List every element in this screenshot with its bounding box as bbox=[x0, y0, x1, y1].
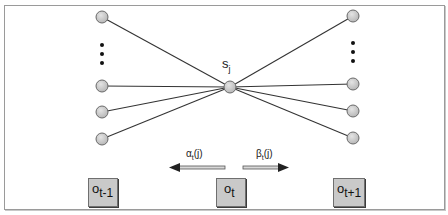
observation-label: ot+1 bbox=[337, 181, 361, 200]
observation-index: t-1 bbox=[99, 186, 113, 200]
left-edges bbox=[102, 17, 230, 139]
center-state-label: sj bbox=[222, 56, 231, 74]
diagram-canvas: sj αt(j) βt(j) ot-1 ot ot+1 bbox=[0, 0, 448, 215]
state-node bbox=[347, 105, 359, 117]
right-state-nodes bbox=[347, 10, 359, 144]
observation-box-next: ot+1 bbox=[333, 178, 365, 207]
observation-box-current: ot bbox=[216, 178, 246, 207]
beta-arrow-icon bbox=[243, 163, 289, 172]
state-node bbox=[347, 132, 359, 144]
beta-arg: (j) bbox=[264, 148, 273, 159]
center-state-node bbox=[224, 81, 236, 93]
state-node bbox=[347, 10, 359, 22]
observation-label: ot-1 bbox=[92, 181, 113, 200]
left-state-nodes bbox=[96, 11, 108, 145]
left-ellipsis-icon bbox=[100, 43, 104, 65]
alpha-label: αt(j) bbox=[186, 148, 203, 161]
observation-index: t+1 bbox=[344, 186, 361, 200]
observation-label: ot bbox=[224, 181, 235, 200]
alpha-arg: (j) bbox=[194, 148, 203, 159]
right-ellipsis-icon bbox=[351, 41, 355, 63]
state-node bbox=[96, 11, 108, 23]
observation-index: t bbox=[231, 186, 234, 200]
right-edges bbox=[230, 16, 353, 138]
state-node bbox=[96, 80, 108, 92]
beta-label: βt(j) bbox=[256, 148, 273, 161]
observation-box-prev: ot-1 bbox=[88, 178, 118, 207]
state-node bbox=[347, 78, 359, 90]
state-index: j bbox=[229, 64, 231, 74]
state-node bbox=[96, 133, 108, 145]
state-node bbox=[96, 106, 108, 118]
alpha-arrow-icon bbox=[169, 163, 225, 172]
